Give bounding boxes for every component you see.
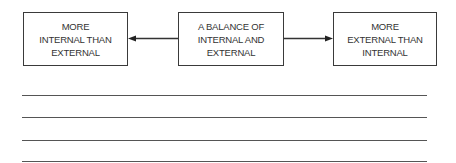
answer-line[interactable] xyxy=(22,161,427,162)
answer-line[interactable] xyxy=(22,140,427,141)
answer-line[interactable] xyxy=(22,95,427,96)
arrows xyxy=(0,0,456,163)
arrow-left-icon xyxy=(128,36,178,42)
answer-line[interactable] xyxy=(22,117,427,118)
arrow-right-icon xyxy=(284,36,333,42)
